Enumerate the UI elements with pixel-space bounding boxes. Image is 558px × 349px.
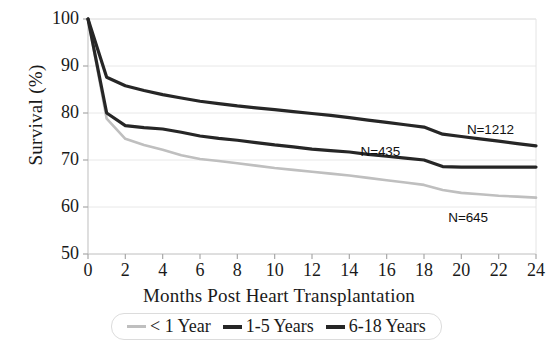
data-series-layer bbox=[88, 19, 536, 198]
series-count-label: N=645 bbox=[448, 210, 488, 225]
survival-chart: Survival (%) 5060708090100 0246810121416… bbox=[0, 0, 558, 349]
legend-item-label: 6-18 Years bbox=[349, 316, 426, 337]
legend-item-label: 1-5 Years bbox=[246, 316, 314, 337]
legend-item-label: < 1 Year bbox=[150, 316, 211, 337]
legend-line-swatch-icon bbox=[223, 325, 242, 329]
legend-item[interactable]: 1-5 Years bbox=[217, 316, 320, 337]
legend-item[interactable]: 6-18 Years bbox=[320, 316, 432, 337]
x-axis-title: Months Post Heart Transplantation bbox=[0, 285, 558, 307]
legend-line-swatch-icon bbox=[127, 325, 146, 328]
legend-line-swatch-icon bbox=[326, 325, 345, 329]
chart-legend: < 1 Year1-5 Years6-18 Years bbox=[111, 313, 442, 340]
series-count-label: N=435 bbox=[361, 144, 401, 159]
legend-item[interactable]: < 1 Year bbox=[121, 316, 217, 337]
series-count-label: N=1212 bbox=[467, 122, 514, 137]
